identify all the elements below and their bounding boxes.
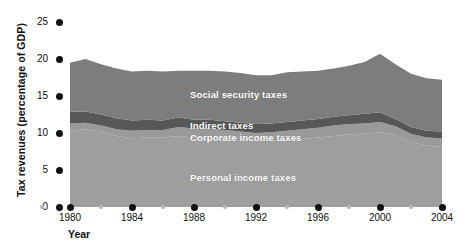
y-tick-dot-25 <box>56 19 63 26</box>
y-tick-dot-15 <box>56 93 63 100</box>
x-tick-minor-dot-1998 <box>347 205 351 209</box>
x-tick-label-1992: 1992 <box>245 212 267 223</box>
series-label-indirect: Indirect taxes <box>190 120 253 131</box>
x-tick-dot-1996 <box>315 204 322 211</box>
y-tick-label-5: 5 <box>18 164 48 175</box>
series-label-social-security: Social security taxes <box>190 89 287 100</box>
series-label-corporate: Corporate income taxes <box>190 132 302 143</box>
y-tick-dot-0 <box>56 204 63 211</box>
x-tick-label-1984: 1984 <box>121 212 143 223</box>
y-tick-label-25: 25 <box>18 16 48 27</box>
x-tick-minor-dot-1994 <box>285 205 289 209</box>
x-tick-dot-1980 <box>67 204 74 211</box>
x-tick-label-2000: 2000 <box>369 212 391 223</box>
x-tick-dot-2004 <box>439 204 446 211</box>
x-tick-minor-dot-1986 <box>161 205 165 209</box>
y-tick-label-10: 10 <box>18 127 48 138</box>
x-tick-label-1996: 1996 <box>307 212 329 223</box>
x-tick-dot-2000 <box>377 204 384 211</box>
x-tick-label-1988: 1988 <box>183 212 205 223</box>
x-tick-dot-1984 <box>129 204 136 211</box>
origin-minor-dot <box>40 205 44 209</box>
chart-figure: Tax revenues (percentage of GDP) Year 05… <box>0 0 474 252</box>
x-tick-label-2004: 2004 <box>431 212 453 223</box>
x-tick-dot-1988 <box>191 204 198 211</box>
y-tick-dot-10 <box>56 130 63 137</box>
x-tick-minor-dot-1982 <box>99 205 103 209</box>
x-tick-minor-dot-1990 <box>223 205 227 209</box>
x-tick-dot-1992 <box>253 204 260 211</box>
y-tick-label-0: 0 <box>18 201 48 212</box>
y-tick-label-20: 20 <box>18 53 48 64</box>
y-tick-dot-20 <box>56 56 63 63</box>
x-tick-label-1980: 1980 <box>59 212 81 223</box>
y-tick-label-15: 15 <box>18 90 48 101</box>
x-tick-minor-dot-2002 <box>409 205 413 209</box>
y-tick-dot-5 <box>56 167 63 174</box>
series-label-personal: Personal income taxes <box>190 172 296 183</box>
